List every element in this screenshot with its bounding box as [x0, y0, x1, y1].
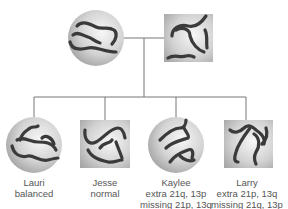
child-kaylee-circle — [148, 117, 204, 173]
child-jesse-square — [80, 120, 130, 168]
child-name: Jesse — [90, 177, 119, 188]
pedigree-lines — [34, 38, 246, 120]
child-status-extra: extra 21q, 13p — [140, 188, 212, 199]
child-lauri-circle — [6, 117, 62, 173]
label-jesse: Jesse normal — [90, 177, 119, 199]
child-status-missing: missing 21p, 13q — [140, 199, 212, 209]
father-square — [164, 14, 213, 62]
child-status-missing: missing 21q, 13p — [211, 199, 283, 209]
label-larry: Larry extra 21p, 13q missing 21q, 13p — [211, 177, 283, 209]
child-name: Lauri — [15, 177, 54, 188]
child-name: Larry — [211, 177, 283, 188]
child-status-extra: extra 21p, 13q — [211, 188, 283, 199]
child-name: Kaylee — [140, 177, 212, 188]
label-kaylee: Kaylee extra 21q, 13p missing 21p, 13q — [140, 177, 212, 209]
child-status: balanced — [15, 188, 54, 199]
label-lauri: Lauri balanced — [15, 177, 54, 199]
mother-circle — [68, 10, 124, 66]
pedigree-diagram: Lauri balanced Jesse normal Kaylee extra… — [0, 0, 288, 209]
child-larry-square — [224, 120, 273, 168]
child-status: normal — [90, 188, 119, 199]
